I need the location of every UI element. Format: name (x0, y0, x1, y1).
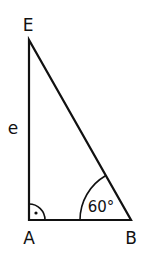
vertex-label-e: E (23, 15, 34, 35)
triangle-eab (29, 40, 131, 220)
angle-label-b: 60° (88, 198, 115, 216)
triangle-diagram: E e A B 60° (0, 0, 146, 256)
vertex-label-a: A (23, 228, 35, 248)
right-angle-dot (34, 211, 37, 214)
side-label-e: e (8, 118, 18, 138)
vertex-label-b: B (125, 228, 137, 248)
